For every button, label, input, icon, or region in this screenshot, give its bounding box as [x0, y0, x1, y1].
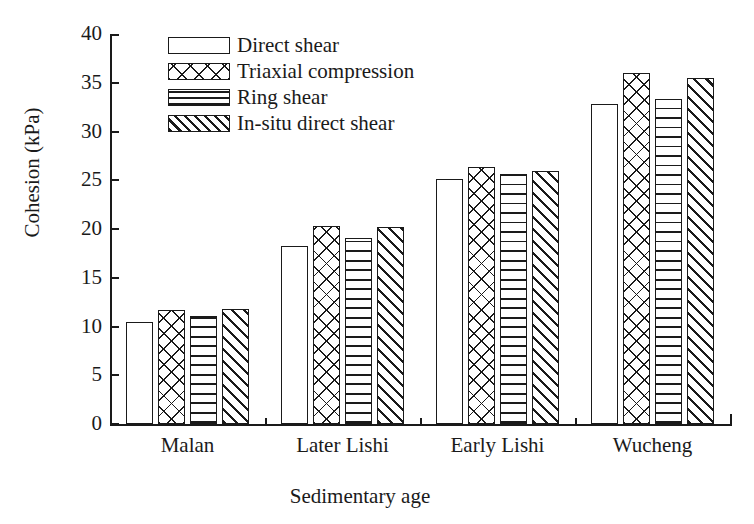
- bar-wucheng-direct-shear: [591, 104, 618, 424]
- x-axis-tick: [265, 418, 267, 426]
- bar-later-lishi-ring-shear: [345, 238, 372, 424]
- y-axis-tick-label: 40: [46, 23, 102, 44]
- legend-label: In-situ direct shear: [237, 113, 394, 134]
- y-axis-tick: [110, 179, 119, 181]
- y-axis-tick-label: 15: [46, 267, 102, 288]
- bar-later-lishi-triaxial-compression: [313, 226, 340, 424]
- x-axis-tick: [575, 418, 577, 426]
- legend-swatch-cross-hatch: [168, 63, 230, 80]
- bar-malan-ring-shear: [190, 316, 217, 424]
- y-axis-tick: [110, 423, 119, 425]
- bar-chart-figure: 0510152025303540 Cohesion (kPa) Sediment…: [0, 0, 754, 524]
- y-axis-tick: [110, 82, 119, 84]
- x-axis-title: Sedimentary age: [110, 484, 610, 509]
- y-axis-tick: [110, 277, 119, 279]
- legend-item-direct-shear: Direct shear: [168, 32, 498, 58]
- bar-early-lishi-in-situ-direct-shear: [532, 171, 559, 425]
- legend-label: Ring shear: [237, 87, 327, 108]
- y-axis-line: [110, 34, 112, 426]
- bar-early-lishi-direct-shear: [436, 179, 463, 424]
- legend-item-triaxial-compression: Triaxial compression: [168, 58, 498, 84]
- legend-swatch-diagonal-hatch: [168, 115, 230, 132]
- legend-label: Direct shear: [237, 35, 339, 56]
- bar-malan-direct-shear: [126, 322, 153, 424]
- x-axis-label-malan: Malan: [98, 434, 278, 456]
- y-axis-tick-label: 30: [46, 121, 102, 142]
- bar-malan-triaxial-compression: [158, 310, 185, 424]
- legend-item-ring-shear: Ring shear: [168, 84, 498, 110]
- bar-later-lishi-in-situ-direct-shear: [377, 227, 404, 424]
- bar-malan-in-situ-direct-shear: [222, 309, 249, 424]
- bar-wucheng-in-situ-direct-shear: [687, 78, 714, 424]
- x-axis-label-wucheng: Wucheng: [563, 434, 743, 456]
- x-axis-label-early-lishi: Early Lishi: [408, 434, 588, 456]
- y-axis-tick-label: 5: [46, 364, 102, 385]
- x-axis-label-later-lishi: Later Lishi: [253, 434, 433, 456]
- y-axis-tick-label: 25: [46, 169, 102, 190]
- y-axis-tick-label: 35: [46, 72, 102, 93]
- x-axis-tick: [420, 418, 422, 426]
- bar-wucheng-triaxial-compression: [623, 73, 650, 424]
- y-axis-tick: [110, 374, 119, 376]
- legend-item-in-situ-direct-shear: In-situ direct shear: [168, 110, 498, 136]
- legend-swatch-empty: [168, 37, 230, 54]
- y-axis-top-cap: [110, 34, 119, 36]
- y-axis-tick-label: 0: [46, 413, 102, 434]
- y-axis-tick: [110, 326, 119, 328]
- bar-early-lishi-ring-shear: [500, 174, 527, 424]
- y-axis-tick-label: 20: [46, 218, 102, 239]
- y-axis-tick-label: 10: [46, 316, 102, 337]
- chart-legend: Direct shearTriaxial compressionRing she…: [168, 32, 498, 136]
- bar-wucheng-ring-shear: [655, 99, 682, 424]
- x-axis-right-cap: [730, 414, 732, 426]
- y-axis-tick: [110, 131, 119, 133]
- legend-swatch-horizontal-lines: [168, 89, 230, 106]
- y-axis-tick: [110, 228, 119, 230]
- y-axis-title: Cohesion (kPa): [20, 53, 45, 293]
- bar-early-lishi-triaxial-compression: [468, 167, 495, 424]
- bar-later-lishi-direct-shear: [281, 246, 308, 424]
- legend-label: Triaxial compression: [237, 61, 414, 82]
